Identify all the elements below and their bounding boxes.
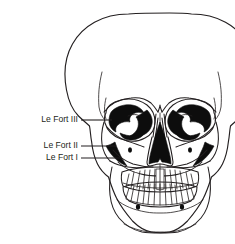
mental-foramen-left <box>136 204 140 210</box>
le-fort-fracture-figure: Le Fort III Le Fort II Le Fort I <box>0 0 235 244</box>
fracture-labels: Le Fort III Le Fort II Le Fort I <box>41 114 78 162</box>
mental-foramen-right <box>180 204 184 210</box>
label-le-fort-3: Le Fort III <box>41 114 78 124</box>
skull-illustration: Le Fort III Le Fort II Le Fort I <box>0 0 235 244</box>
label-le-fort-1: Le Fort I <box>46 152 78 162</box>
label-le-fort-2: Le Fort II <box>44 140 78 150</box>
